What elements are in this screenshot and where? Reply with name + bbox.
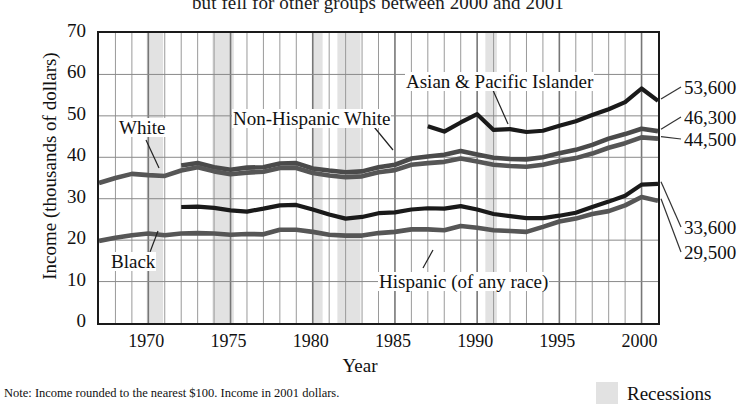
x-tick-label: 1995 <box>522 332 592 350</box>
y-tick-label: 0 <box>40 311 86 330</box>
series-end-value: 53,600 <box>684 78 736 97</box>
y-tick-label: 30 <box>40 187 86 206</box>
x-tick-label: 1980 <box>276 332 346 350</box>
y-tick-label: 60 <box>40 62 86 81</box>
y-tick-label: 40 <box>40 145 86 164</box>
x-tick-label: 1990 <box>440 332 510 350</box>
legend-label: Recessions <box>627 384 711 403</box>
chart-container: but fell for other groups between 2000 a… <box>0 0 756 410</box>
x-tick-label: 2000 <box>605 332 675 350</box>
recession-swatch <box>596 382 618 404</box>
x-axis-title: Year <box>0 355 720 377</box>
x-tick-label: 1975 <box>194 332 264 350</box>
series-end-value: 44,500 <box>684 130 736 149</box>
series-label: White <box>118 118 166 137</box>
series-end-value: 46,300 <box>684 108 736 127</box>
series-label: Asian & Pacific Islander <box>405 72 594 91</box>
series-label: Hispanic (of any race) <box>378 272 549 291</box>
y-tick-label: 50 <box>40 104 86 123</box>
x-tick-label: 1970 <box>111 332 181 350</box>
chart-title: but fell for other groups between 2000 a… <box>0 0 756 13</box>
series-end-value: 29,500 <box>684 243 736 262</box>
recession-band <box>313 33 323 323</box>
y-tick-label: 10 <box>40 270 86 289</box>
legend-recessions: Recessions <box>596 382 711 404</box>
series-label: Black <box>110 252 156 271</box>
x-tick-label: 1985 <box>358 332 428 350</box>
y-tick-label: 20 <box>40 228 86 247</box>
series-label: Non-Hispanic White <box>232 109 391 128</box>
chart-note: Note: Income rounded to the nearest $100… <box>4 386 339 400</box>
series-end-value: 33,600 <box>684 218 736 237</box>
y-tick-label: 70 <box>40 21 86 40</box>
